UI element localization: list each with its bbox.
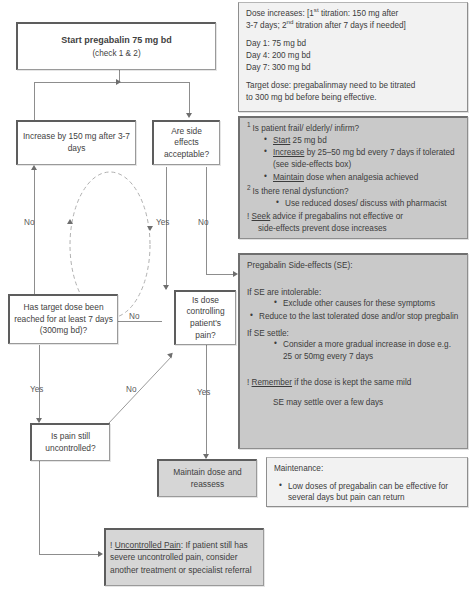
node-maintain-dose[interactable]: Maintain dose and reassess	[157, 459, 257, 497]
uncontrolled-pain-lead: Uncontrolled Pain	[115, 540, 181, 550]
checks-b3-rest: dose when analgesia achieved	[304, 173, 418, 182]
connector-split-arrow-icon	[116, 79, 121, 85]
se-settle-head: If SE settle:	[247, 328, 460, 340]
connector-pain-down	[39, 461, 40, 554]
checks-seek-verb: Seek	[252, 212, 271, 221]
se-intolerable-bullets-2: Reduce to the last tolerated dose and/or…	[247, 311, 460, 323]
se-intolerable-bullets: Exclude other causes for these symptoms	[247, 298, 460, 310]
connector-controlling-yes	[206, 345, 207, 458]
checks-b2-verb: Increase	[273, 148, 304, 157]
connector-pain-right	[39, 554, 101, 555]
checks-q1-bullets: Start 25 mg bd Increase by 25–50 mg bd e…	[247, 135, 460, 184]
flowchart-page: No Yes No No Yes No Yes Start pregabalin…	[0, 0, 472, 595]
dashed-loop-arrow-right-icon	[147, 226, 153, 231]
se-remember-line2: SE may settle over a few days	[247, 397, 460, 409]
node-dose-controlling-pain[interactable]: Is dose controlling patient's pain?	[174, 290, 236, 345]
connector-split-right	[189, 82, 190, 114]
list-item: Consider a more gradual increase in dose…	[283, 339, 460, 362]
checks-b1-rest: 25 mg bd	[290, 136, 326, 145]
list-item: Exclude other causes for these symptoms	[283, 298, 460, 310]
se-remember-verb: Remember	[252, 378, 293, 387]
dosing-day4: Day 4: 200 mg bd	[246, 50, 460, 62]
list-item: Reduce to the last tolerated dose and/or…	[259, 311, 460, 323]
node-target-dose-reached[interactable]: Has target dose been reached for at leas…	[8, 294, 118, 344]
checks-seek-mark: !	[247, 212, 249, 221]
node-maintain-label: Maintain dose and reassess	[163, 467, 252, 490]
checks-b1-verb: Start	[273, 136, 290, 145]
node-increase-label: Increase by 150 mg after 3-7 days	[22, 131, 131, 154]
node-dose-controlling-label: Is dose controlling patient's pain?	[180, 295, 231, 341]
dosing-day1: Day 1: 75 mg bd	[246, 38, 460, 50]
list-item: Increase by 25–50 mg bd every 7 days if …	[273, 147, 460, 170]
dosing-line2: 3-7 days; 2nd titration after 7 days if …	[246, 20, 460, 32]
connector-split-bus	[34, 82, 189, 83]
dosing-target-line1: Target dose: pregabalinmay need to be ti…	[246, 80, 460, 92]
node-side-effects-acceptable[interactable]: Are side effects acceptable?	[152, 120, 220, 165]
node-target-dose-label: Has target dose been reached for at leas…	[14, 302, 113, 337]
panel-maintenance: Maintenance: Low doses of pregabalin can…	[266, 457, 468, 507]
checks-seek-rest: advice if pregabalins not effective or	[270, 212, 403, 221]
connector-controlling-no	[117, 321, 162, 322]
panel-checks: 1Is patient frail/ elderly/ infirm? Star…	[238, 116, 468, 239]
dosing-line2-b: titration after 7 days if needed]	[293, 21, 405, 30]
list-item: Use reduced doses/ discuss with pharmaci…	[285, 198, 460, 210]
edge-label-se-yes: Yes	[156, 218, 169, 227]
node-uncontrolled-pain[interactable]: ! Uncontrolled Pain: If patient still ha…	[104, 528, 264, 586]
edge-label-pain-no: No	[126, 385, 136, 394]
connector-se-yes-arrow-icon	[163, 285, 169, 290]
connector-pain-arrow-icon	[98, 551, 103, 557]
node-start-title: Start pregabalin 75 mg bd	[61, 35, 172, 45]
dosing-line2-a: 3-7 days; 2	[246, 21, 287, 30]
connector-no-loop-up	[34, 170, 35, 295]
checks-q1: 1Is patient frail/ elderly/ infirm?	[247, 123, 460, 135]
checks-q2-text: Is there renal dysfunction?	[253, 187, 349, 196]
checks-q2-bullets: Use reduced doses/ discuss with pharmaci…	[247, 198, 460, 210]
connector-increase-arrow-icon	[31, 165, 37, 170]
checks-q2-num: 2	[247, 184, 251, 191]
se-remember: ! Remember if the dose is kept the same …	[247, 377, 460, 389]
se-title: Pregabalin Side-effects (SE):	[247, 260, 460, 272]
checks-b3-verb: Maintain	[273, 173, 304, 182]
node-start-sub: (check 1 & 2)	[22, 48, 211, 59]
dosing-line1: Dose increases: [1st titration: 150 mg a…	[246, 8, 460, 20]
node-pain-still-uncontrolled[interactable]: Is pain still uncontrolled?	[30, 423, 110, 461]
checks-seek: ! Seek advice if pregabalins not effecti…	[247, 211, 460, 223]
edge-label-controlling-no: No	[129, 312, 139, 321]
connector-split-left	[34, 82, 35, 120]
uncontrolled-pain-mark: !	[110, 540, 112, 550]
se-intolerable-head: If SE are intolerable:	[247, 287, 460, 299]
list-item: Maintain dose when analgesia achieved	[273, 172, 460, 184]
se-remember-mark: !	[247, 378, 249, 387]
checks-q1-num: 1	[247, 121, 251, 128]
maintenance-bullets: Low doses of pregabalin can be effective…	[274, 481, 460, 504]
panel-side-effects: Pregabalin Side-effects (SE): If SE are …	[238, 253, 468, 449]
dosing-target-line2: to 300 mg bd before being effective.	[246, 92, 460, 104]
checks-q2: 2Is there renal dysfunction?	[247, 186, 460, 198]
connector-se-yes	[166, 167, 167, 289]
dosing-line1-a: Dose increases: [1	[246, 9, 314, 18]
node-side-effects-label: Are side effects acceptable?	[158, 126, 215, 161]
dashed-loop-arrow-left-icon	[67, 219, 73, 224]
maintenance-title: Maintenance:	[274, 463, 460, 475]
connector-target-yes	[39, 345, 40, 422]
edge-label-target-yes: Yes	[30, 385, 43, 394]
connector-pain-no-diagonal	[108, 356, 172, 424]
node-start-pregabalin[interactable]: Start pregabalin 75 mg bd (check 1 & 2)	[16, 22, 216, 70]
dosing-line1-b: titration: 150 mg after	[319, 9, 399, 18]
edge-label-se-no: No	[198, 218, 208, 227]
se-settle-bullets: Consider a more gradual increase in dose…	[247, 339, 460, 362]
list-item: Start 25 mg bd	[273, 135, 460, 147]
connector-pain-no-arrow-icon	[167, 351, 175, 359]
list-item: Low doses of pregabalin can be effective…	[288, 481, 460, 504]
edge-label-controlling-yes: Yes	[197, 388, 210, 397]
checks-seek-line2: side-effects prevent dose increases	[247, 223, 460, 235]
node-increase-dose[interactable]: Increase by 150 mg after 3-7 days	[16, 120, 136, 165]
node-pain-still-label: Is pain still uncontrolled?	[36, 431, 105, 454]
connector-se-arrow-icon	[186, 113, 192, 118]
checks-q1-text: Is patient frail/ elderly/ infirm?	[253, 124, 359, 133]
se-remember-rest: if the dose is kept the same mild	[292, 378, 411, 387]
connector-se-no-right	[206, 274, 236, 275]
dosing-day7: Day 7: 300 mg bd	[246, 62, 460, 74]
edge-label-increase-no: No	[24, 218, 34, 227]
panel-dosing: Dose increases: [1st titration: 150 mg a…	[238, 2, 468, 112]
